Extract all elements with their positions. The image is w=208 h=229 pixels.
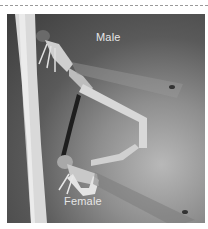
female-label: Female	[64, 195, 102, 207]
male-label: Male	[96, 31, 121, 43]
damselfly-illustration	[7, 14, 205, 223]
dashed-separator	[0, 5, 208, 6]
damselfly-photo: Male Female	[7, 14, 205, 223]
